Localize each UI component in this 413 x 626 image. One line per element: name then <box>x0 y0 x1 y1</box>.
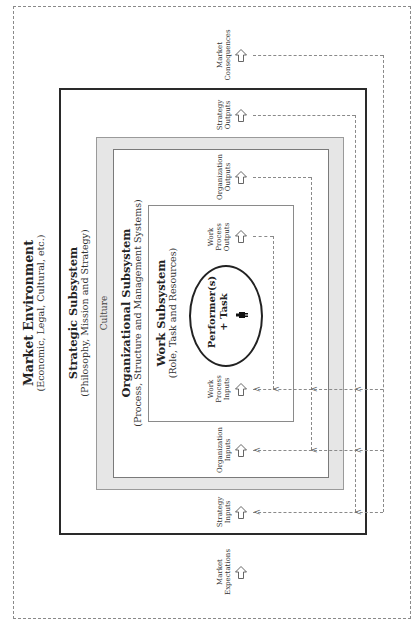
label-line: Outputs <box>223 223 231 251</box>
label-line: Inputs <box>223 375 231 403</box>
strategy-inputs-arrow-icon <box>235 506 247 519</box>
organization-outputs-arrow-icon <box>235 171 247 184</box>
organization-feedback-line <box>311 177 312 450</box>
work-process-outputs-arrow-icon <box>235 230 247 243</box>
market-consequences-label: Market Consequences <box>216 29 232 80</box>
chevron-left-icon: < <box>253 385 261 394</box>
label-line: Market <box>216 549 224 595</box>
work-subsystem-subtitle: (Role, Task and Resources) <box>168 248 178 379</box>
chevron-left-icon: < <box>354 446 362 455</box>
strategy-inputs-line <box>253 512 383 513</box>
market-environment-subtitle: (Economic, Legal, Cultural, etc.) <box>36 235 46 392</box>
work-feedback-line <box>253 236 273 237</box>
label-line: Work <box>207 375 215 403</box>
work-subsystem-title: Work Subsystem <box>155 248 168 379</box>
label-line: Outputs <box>224 100 232 131</box>
chevron-left-icon: < <box>310 385 318 394</box>
performer-line2: + Task <box>218 276 230 348</box>
label-line: Process <box>215 375 223 403</box>
work-process-inputs-arrow-icon <box>235 383 247 396</box>
market-feedback-line <box>383 55 384 512</box>
strategic-subsystem-subtitle: (Philosophy, Mission and Strategy) <box>80 229 90 396</box>
strategic-subsystem-label: Strategic Subsystem (Philosophy, Mission… <box>67 229 90 396</box>
chevron-left-icon: < <box>354 385 362 394</box>
strategy-inputs-label: Strategy Inputs <box>216 497 232 528</box>
organization-inputs-line <box>253 450 383 451</box>
label-line: Outputs <box>224 154 232 200</box>
label-line: Market <box>216 29 224 80</box>
chevron-left-icon: < <box>253 446 261 455</box>
label-line: Process <box>215 223 223 251</box>
organizational-subsystem-subtitle: (Process, Structure and Management Syste… <box>133 199 143 427</box>
organization-feedback-line <box>253 177 311 178</box>
chevron-left-icon: < <box>272 385 280 394</box>
work-process-outputs-label: Work Process Outputs <box>207 223 231 251</box>
label-line: Expectations <box>224 549 232 595</box>
strategy-outputs-arrow-icon <box>235 109 247 122</box>
organizational-subsystem-label: Organizational Subsystem (Process, Struc… <box>120 199 143 427</box>
label-line: Organization <box>216 154 224 200</box>
label-line: Inputs <box>224 427 232 473</box>
market-expectations-arrow-icon <box>235 566 247 579</box>
market-feedback-line <box>253 55 383 56</box>
work-subsystem-label: Work Subsystem (Role, Task and Resources… <box>155 248 178 379</box>
work-feedback-line <box>273 236 274 389</box>
label-line: Strategy <box>216 497 224 528</box>
market-expectations-label: Market Expectations <box>216 549 232 595</box>
strategy-outputs-label: Strategy Outputs <box>216 100 232 131</box>
label-line: Strategy <box>216 100 224 131</box>
organizational-subsystem-title: Organizational Subsystem <box>120 199 133 427</box>
organization-outputs-label: Organization Outputs <box>216 154 232 200</box>
strategic-subsystem-title: Strategic Subsystem <box>67 229 80 396</box>
organization-inputs-label: Organization Inputs <box>216 427 232 473</box>
culture-label: Culture <box>100 296 110 331</box>
label-line: Work <box>207 223 215 251</box>
market-environment-title: Market Environment <box>22 235 36 392</box>
chevron-left-icon: < <box>310 446 318 455</box>
organization-inputs-arrow-icon <box>235 444 247 457</box>
person-icon <box>236 312 248 318</box>
work-process-inputs-label: Work Process Inputs <box>207 375 231 403</box>
strategy-feedback-line <box>253 115 355 116</box>
performer-line1: Performer(s) <box>206 276 218 348</box>
label-line: Inputs <box>224 497 232 528</box>
performer-label: Performer(s) + Task <box>206 276 230 348</box>
chevron-left-icon: < <box>354 508 362 517</box>
label-line: Organization <box>216 427 224 473</box>
market-consequences-arrow-icon <box>235 49 247 62</box>
market-environment-label: Market Environment (Economic, Legal, Cul… <box>22 235 46 392</box>
chevron-left-icon: < <box>253 508 261 517</box>
label-line: Consequences <box>224 29 232 80</box>
